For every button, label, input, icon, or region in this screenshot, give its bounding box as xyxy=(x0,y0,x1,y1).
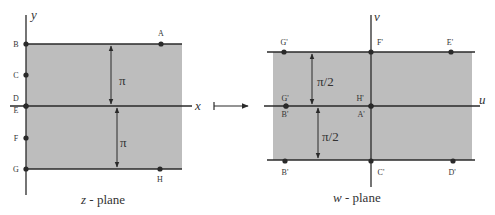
w-point-label: A' xyxy=(357,110,365,119)
conformal-mapping-diagram: x y π π ABCDEFGH z - plane u v π/2 π/2 G… xyxy=(0,0,495,215)
w-point-label: F' xyxy=(377,38,383,47)
z-point-marker xyxy=(23,166,28,171)
z-plane-caption: z - plane xyxy=(80,192,125,207)
z-point-marker xyxy=(158,41,163,46)
w-plane-panel: u v π/2 π/2 G'F'E'G'B'H'A'B'C'D' w - pla… xyxy=(264,9,486,205)
z-plane-panel: x y π π ABCDEFGH z - plane xyxy=(10,7,201,207)
v-axis-label: v xyxy=(374,9,380,24)
z-point-label: G xyxy=(13,165,19,174)
z-strip-top-height-label: π xyxy=(119,73,126,88)
z-point-marker xyxy=(23,103,28,108)
z-caption-variable: z xyxy=(80,192,86,207)
y-axis-label: y xyxy=(29,7,37,22)
z-point-label: E xyxy=(14,106,19,115)
w-point-marker xyxy=(368,103,373,108)
z-point-marker xyxy=(157,166,162,171)
z-point-marker xyxy=(23,41,28,46)
w-point-marker xyxy=(450,158,455,163)
w-caption-text: - plane xyxy=(345,190,381,205)
z-point-label: A xyxy=(158,29,164,38)
w-point-label: E' xyxy=(447,38,454,47)
w-strip-top-height-label: π/2 xyxy=(317,74,334,89)
z-caption-text: - plane xyxy=(89,192,125,207)
mapping-arrow xyxy=(214,102,248,110)
w-point-label: G' xyxy=(281,94,289,103)
z-strip-bottom-height-label: π xyxy=(120,135,127,150)
w-strip-bottom-height-label: π/2 xyxy=(322,129,339,144)
w-point-label: B' xyxy=(282,110,289,119)
z-point-marker xyxy=(23,135,28,140)
w-point-marker xyxy=(368,158,373,163)
w-point-label: G' xyxy=(280,38,288,47)
z-point-marker xyxy=(23,72,28,77)
z-point-label: F xyxy=(14,134,19,143)
w-point-marker xyxy=(283,103,288,108)
w-point-marker xyxy=(368,49,373,54)
w-point-marker xyxy=(281,49,286,54)
z-point-label: B xyxy=(13,40,18,49)
w-point-label: B' xyxy=(282,168,289,177)
x-axis-label: x xyxy=(194,98,201,113)
w-point-label: D' xyxy=(448,168,456,177)
w-point-label: H' xyxy=(356,94,364,103)
w-point-marker xyxy=(282,158,287,163)
z-point-label: D xyxy=(13,94,19,103)
z-point-label: C xyxy=(13,71,18,80)
w-caption-variable: w xyxy=(333,190,342,205)
w-point-label: C' xyxy=(378,168,385,177)
w-point-marker xyxy=(448,49,453,54)
w-plane-caption: w - plane xyxy=(333,190,381,205)
z-point-label: H xyxy=(157,175,163,184)
u-axis-label: u xyxy=(479,92,486,107)
